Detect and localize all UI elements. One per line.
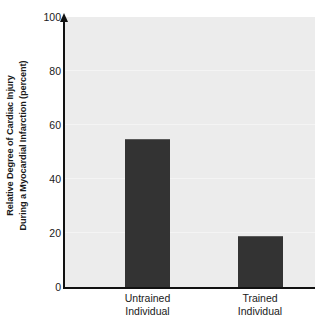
y-axis-title: Relative Degree of Cardiac Injury During…: [0, 0, 32, 290]
y-axis-tick-label: 80: [35, 66, 61, 77]
plot-area: [65, 17, 315, 287]
y-axis-tick-label: 100: [35, 12, 61, 23]
x-axis-category-label-line: Untrained: [88, 292, 208, 305]
y-axis-line: [63, 20, 65, 288]
y-axis-tick-labels: 020406080100: [33, 0, 61, 326]
gridline: [65, 178, 315, 179]
y-axis-tick-label: 60: [35, 120, 61, 131]
y-axis-arrowhead-icon: [60, 13, 68, 22]
gridline: [65, 232, 315, 233]
x-axis-category-label-line: Individual: [88, 305, 208, 318]
y-axis-title-line-1: Relative Degree of Cardiac Injury: [4, 60, 17, 230]
x-axis-line: [63, 287, 315, 289]
x-axis-category-label: TrainedIndividual: [200, 292, 320, 317]
bar: [238, 236, 283, 287]
bar-chart-figure: Relative Degree of Cardiac Injury During…: [0, 0, 333, 326]
gridline: [65, 70, 315, 71]
bar: [125, 139, 170, 288]
y-axis-title-line-2: During a Myocardial Infarction (percent): [16, 60, 29, 230]
gridline: [65, 124, 315, 125]
x-axis-category-label-line: Individual: [200, 305, 320, 318]
x-axis-category-label-line: Trained: [200, 292, 320, 305]
y-axis-tick-label: 20: [35, 228, 61, 239]
y-axis-tick-label: 0: [35, 282, 61, 293]
x-axis-category-label: UntrainedIndividual: [88, 292, 208, 317]
y-axis-tick-label: 40: [35, 174, 61, 185]
